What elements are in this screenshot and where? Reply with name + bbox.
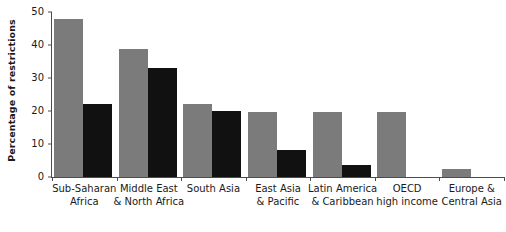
bar-group — [439, 12, 504, 177]
bar — [248, 112, 277, 177]
x-axis-label-line2: Central Asia — [431, 196, 506, 209]
bar — [212, 111, 241, 177]
bar — [277, 150, 306, 177]
x-tick-mark — [375, 177, 376, 181]
bar — [342, 165, 371, 177]
bar-group — [246, 12, 311, 177]
bar-group — [310, 12, 375, 177]
x-axis-label: Europe &Central Asia — [431, 183, 506, 208]
x-axis-label-line1: Sub-Saharan — [52, 183, 116, 194]
bar-group — [181, 12, 246, 177]
x-axis-labels: Sub-SaharanAfricaMiddle East& North Afri… — [52, 183, 504, 229]
y-tick-label: 30 — [22, 73, 44, 83]
bar-group — [52, 12, 117, 177]
x-axis-label-line2: & North Africa — [109, 196, 190, 209]
bar-group — [117, 12, 182, 177]
y-tick-label: 20 — [22, 106, 44, 116]
plot-area — [52, 12, 504, 177]
bar — [442, 169, 471, 177]
y-tick-label: 10 — [22, 139, 44, 149]
x-axis-label-line1: East Asia — [255, 183, 301, 194]
bar — [83, 104, 112, 177]
x-tick-mark — [117, 177, 118, 181]
y-axis-label-text: Percentage of restrictions — [6, 19, 17, 162]
x-axis-label-line1: Europe & — [449, 183, 495, 194]
x-tick-mark — [439, 177, 440, 181]
x-tick-mark — [246, 177, 247, 181]
x-axis-label-line1: OECD — [393, 183, 422, 194]
x-tick-mark — [52, 177, 53, 181]
bar-chart: Percentage of restrictions 01020304050 S… — [0, 0, 506, 232]
bar — [313, 112, 342, 177]
bar — [54, 19, 83, 177]
x-axis-label-line1: South Asia — [187, 183, 240, 194]
y-tick-label: 40 — [22, 40, 44, 50]
x-tick-mark — [310, 177, 311, 181]
y-axis-ticks: 01020304050 — [22, 0, 48, 190]
y-axis-label: Percentage of restrictions — [0, 0, 22, 180]
x-tick-mark — [181, 177, 182, 181]
bar — [377, 112, 406, 177]
y-tick-label: 50 — [22, 7, 44, 17]
x-axis-label-line1: Middle East — [120, 183, 178, 194]
bar — [119, 49, 148, 177]
bar — [183, 104, 212, 177]
bar-group — [375, 12, 440, 177]
bar — [148, 68, 177, 177]
x-tick-mark — [504, 177, 505, 181]
x-axis-line — [51, 177, 504, 178]
y-tick-label: 0 — [22, 172, 44, 182]
